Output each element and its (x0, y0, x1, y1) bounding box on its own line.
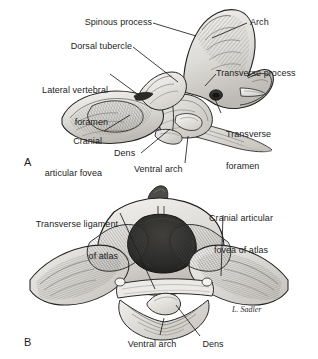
label-ventral-arch-a: Ventral arch (134, 164, 204, 175)
artist-signature: L. Sadler (232, 305, 261, 314)
label-cranial-articular-fovea-line2: articular fovea (10, 168, 102, 179)
label-transverse-ligament-line2: of atlas (8, 251, 118, 262)
label-transverse-foramen-line2: foramen (226, 161, 306, 172)
label-dens-a: Dens (114, 148, 154, 159)
label-cranial-fovea-atlas-line2: fovea of atlas (190, 245, 292, 256)
label-arch: Arch (250, 17, 290, 28)
anatomical-figure: Spinous process Dorsal tubercle Lateral … (0, 0, 318, 359)
label-transverse-ligament-line1: Transverse ligament (8, 219, 118, 230)
label-transverse-ligament-of-atlas: Transverse ligament of atlas (8, 198, 118, 282)
label-transverse-process: Transverse process (216, 68, 316, 79)
label-lateral-vertebral-foramen-line1: Lateral vertebral (12, 85, 108, 96)
label-dens-b: Dens (192, 339, 234, 350)
label-transverse-foramen-line1: Transverse (226, 129, 306, 140)
label-cranial-articular-fovea-of-atlas: Cranial articular fovea of atlas (190, 192, 292, 276)
label-dorsal-tubercle: Dorsal tubercle (38, 41, 132, 52)
label-cranial-fovea-atlas-line1: Cranial articular (190, 213, 292, 224)
label-spinous-process: Spinous process (54, 17, 152, 28)
panel-letter-b: B (24, 336, 31, 348)
label-cranial-articular-fovea-line1: Cranial (10, 136, 102, 147)
label-transverse-foramen: Transverse foramen (226, 108, 306, 192)
label-ventral-arch-b: Ventral arch (116, 339, 188, 350)
panel-letter-a: A (24, 156, 31, 168)
